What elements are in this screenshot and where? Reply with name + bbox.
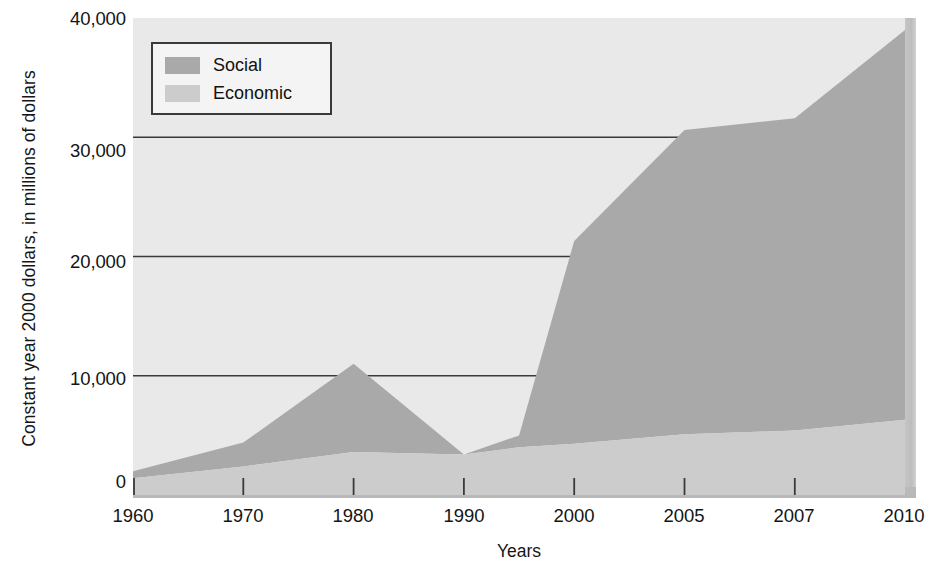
legend-item-economic[interactable]: Economic: [165, 79, 330, 107]
y-tick-label-0: 0: [38, 471, 126, 493]
legend-label-social: Social: [213, 56, 262, 74]
x-tick-label-1980: 1980: [308, 505, 398, 527]
x-tick-label-2007: 2007: [749, 505, 839, 527]
x-tick-label-2010: 2010: [859, 505, 945, 527]
x-tick-label-1970: 1970: [198, 505, 288, 527]
chart-legend: Social Economic: [151, 42, 332, 115]
legend-item-social[interactable]: Social: [165, 51, 330, 79]
y-tick-label-40000: 40,000: [38, 8, 126, 30]
y-tick-label-20000: 20,000: [38, 251, 126, 273]
legend-label-economic: Economic: [213, 84, 292, 102]
x-tick-label-2005: 2005: [639, 505, 729, 527]
x-axis-title: Years: [133, 541, 905, 562]
x-tick-label-1990: 1990: [419, 505, 509, 527]
x-tick-label-1960: 1960: [88, 505, 178, 527]
x-tick-label-2000: 2000: [529, 505, 619, 527]
x-axis-tick-labels: 1960 1970 1980 1990 2000 2005 2007 2010: [0, 505, 945, 535]
plot-bevel-right: [905, 18, 916, 495]
y-tick-label-30000: 30,000: [38, 140, 126, 162]
y-tick-label-10000: 10,000: [38, 368, 126, 390]
legend-swatch-economic: [165, 85, 200, 102]
legend-swatch-social: [165, 57, 200, 74]
stacked-area-chart: Constant year 2000 dollars, in millions …: [0, 0, 945, 570]
y-axis-tick-labels: 40,000 30,000 20,000 10,000 0: [36, 0, 126, 570]
